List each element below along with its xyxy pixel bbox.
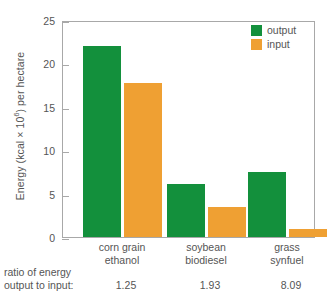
bar-output[interactable] — [167, 184, 205, 237]
x-axis-label-line: synfuel — [270, 254, 303, 266]
ratio-caption-line-1: ratio of energy — [4, 266, 71, 278]
x-axis-labels: corn grainethanolsoybeanbiodieselgrasssy… — [62, 241, 315, 267]
y-axis-title-tail: ) per hectare — [14, 52, 26, 113]
x-axis-label-line: soybean — [186, 241, 226, 253]
ratio-caption: ratio of energy output to input: — [4, 266, 73, 292]
x-axis-label-line: biodiesel — [185, 254, 226, 266]
bar-group — [248, 22, 327, 237]
bar-output[interactable] — [248, 172, 286, 237]
y-tick-label: 5 — [49, 189, 55, 201]
bar-input[interactable] — [289, 229, 327, 237]
ratio-annotation-block: ratio of energy output to input: 1.251.9… — [4, 266, 334, 294]
y-axis-title-exponent: 6 — [13, 113, 20, 117]
legend-item-input[interactable]: input — [251, 38, 296, 50]
x-axis-label: grasssynfuel — [237, 241, 334, 266]
y-tick-label: 25 — [43, 15, 55, 27]
y-tick-label: 20 — [43, 58, 55, 70]
ratio-value: 1.25 — [86, 279, 166, 292]
plot-area: 0510152025 outputinput — [62, 21, 315, 238]
y-tick-label: 0 — [49, 232, 55, 244]
chart-legend: outputinput — [251, 24, 296, 52]
ratio-value: 1.93 — [170, 279, 250, 292]
bar-input[interactable] — [124, 83, 162, 238]
bar-input[interactable] — [208, 207, 246, 237]
legend-label: output — [267, 24, 296, 36]
y-tick-label: 15 — [43, 102, 55, 114]
bar-group — [167, 22, 246, 237]
y-axis-title: Energy (kcal × 106) per hectare — [14, 19, 26, 234]
y-tick-label: 10 — [43, 145, 55, 157]
x-axis-label-line: corn grain — [99, 241, 146, 253]
legend-label: input — [267, 38, 290, 50]
bars-layer — [63, 22, 314, 237]
ratio-caption-line-2: output to input: — [4, 279, 73, 291]
legend-item-output[interactable]: output — [251, 24, 296, 36]
ratio-value: 8.09 — [251, 279, 331, 292]
x-axis-label-line: ethanol — [105, 254, 139, 266]
y-axis-title-main: Energy (kcal × 10 — [14, 117, 26, 201]
y-tick-mark — [62, 239, 69, 240]
bar-output[interactable] — [83, 46, 121, 237]
legend-swatch-icon — [251, 25, 262, 36]
bar-group — [83, 22, 162, 237]
energy-balance-bar-chart: Energy (kcal × 106) per hectare 05101520… — [0, 0, 334, 295]
legend-swatch-icon — [251, 39, 262, 50]
x-axis-label-line: grass — [274, 241, 300, 253]
